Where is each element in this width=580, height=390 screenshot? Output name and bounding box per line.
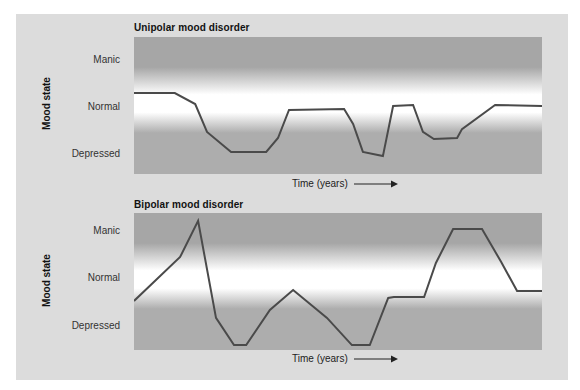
plot-area-bipolar — [134, 213, 542, 350]
y-tick-manic-unipolar: Manic — [40, 54, 120, 65]
y-tick-normal-bipolar: Normal — [40, 272, 120, 283]
chart-title-unipolar: Unipolar mood disorder — [134, 22, 250, 33]
y-tick-depressed-bipolar: Depressed — [40, 320, 120, 331]
arrow-right-icon — [354, 180, 398, 188]
y-tick-manic-bipolar: Manic — [40, 225, 120, 236]
plot-area-unipolar — [134, 37, 542, 174]
arrow-right-icon — [354, 355, 398, 363]
x-axis-label-unipolar: Time (years) — [292, 178, 398, 189]
y-tick-depressed-unipolar: Depressed — [40, 148, 120, 159]
x-axis-label-text: Time (years) — [292, 353, 348, 364]
chart-title-bipolar: Bipolar mood disorder — [134, 199, 243, 210]
x-axis-label-text: Time (years) — [292, 178, 348, 189]
x-axis-label-bipolar: Time (years) — [292, 353, 398, 364]
y-tick-normal-unipolar: Normal — [40, 101, 120, 112]
